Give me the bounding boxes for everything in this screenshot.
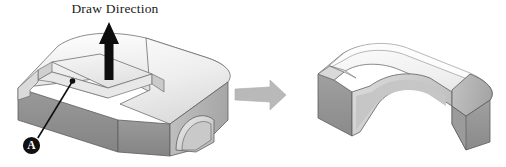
callout-marker-circle bbox=[22, 136, 41, 155]
left-part-cored-block bbox=[18, 33, 230, 156]
draw-direction-figure: Draw Direction A bbox=[0, 0, 506, 167]
figure-canvas bbox=[0, 0, 506, 167]
leader-line-endpoint-dot bbox=[70, 78, 76, 84]
left-part-front-right-face bbox=[118, 120, 170, 156]
right-part-arch-shell bbox=[318, 43, 492, 150]
right-part-left-leg-front-face bbox=[318, 74, 352, 136]
process-arrow bbox=[235, 80, 286, 110]
right-arrow-icon bbox=[235, 80, 286, 110]
draw-direction-label: Draw Direction bbox=[0, 1, 230, 17]
